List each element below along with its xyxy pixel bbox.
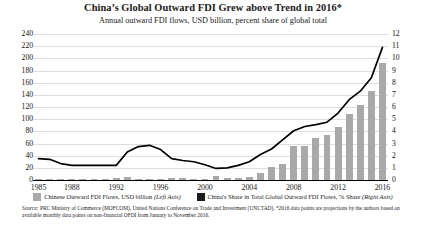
- x-axis-tick-label: 2012: [318, 183, 358, 192]
- right-axis-tick-label: 1: [392, 164, 420, 172]
- right-axis-tick-label: 12: [392, 30, 420, 38]
- left-axis-tick-label: 220: [3, 42, 33, 50]
- left-axis-tick-label: 240: [3, 30, 33, 38]
- source-text: PRC Ministry of Commerce (MOFCOM), Unite…: [22, 205, 400, 218]
- fdi-chart-card: China’s Global Outward FDI Grew above Tr…: [0, 0, 426, 233]
- legend-swatch-bars: [33, 193, 41, 201]
- right-axis-tick-label: 7: [392, 91, 420, 99]
- right-axis-tick-label: 6: [392, 103, 420, 111]
- right-axis-tick-label: 10: [392, 54, 420, 62]
- x-axis-tick-label: 2000: [185, 183, 225, 192]
- right-axis-tick-label: 11: [392, 42, 420, 50]
- right-axis-tick-label: 9: [392, 67, 420, 75]
- left-axis-tick-label: 140: [3, 91, 33, 99]
- legend-item-bars[interactable]: Chinese Outward FDI Flows, USD billion (…: [33, 193, 180, 201]
- x-axis-tick-label: 2008: [274, 183, 314, 192]
- chart-legend: Chinese Outward FDI Flows, USD billion (…: [0, 193, 426, 201]
- x-axis-tick-label: 2016: [362, 183, 402, 192]
- left-axis-tick-label: 60: [3, 140, 33, 148]
- right-axis-tick-label: 8: [392, 79, 420, 87]
- left-axis-tick-label: 180: [3, 67, 33, 75]
- left-axis-tick-label: 120: [3, 103, 33, 111]
- right-axis-tick-label: 2: [392, 152, 420, 160]
- legend-item-line[interactable]: China's Share in Total Global Outward FD…: [197, 193, 393, 201]
- right-axis-tick-label: 5: [392, 115, 420, 123]
- left-axis-tick-label: 20: [3, 164, 33, 172]
- x-axis-baseline: [33, 180, 388, 181]
- x-axis-tick-label: 1988: [52, 183, 92, 192]
- left-axis-tick-label: 80: [3, 127, 33, 135]
- left-axis-tick-label: 160: [3, 79, 33, 87]
- legend-label-bars: Chinese Outward FDI Flows, USD billion (…: [44, 193, 180, 201]
- legend-swatch-line: [197, 193, 205, 201]
- left-axis-tick-label: 200: [3, 54, 33, 62]
- plot-area: [33, 34, 388, 180]
- x-axis-tick-label: 2004: [229, 183, 269, 192]
- share-line-path: [39, 47, 383, 168]
- source-note: Source: PRC Ministry of Commerce (MOFCOM…: [22, 205, 414, 219]
- x-axis-tick-label: 1992: [96, 183, 136, 192]
- source-label: Source:: [22, 205, 39, 211]
- left-axis-tick-label: 40: [3, 152, 33, 160]
- x-axis-tick-label: 1996: [141, 183, 181, 192]
- line-series: [33, 34, 388, 180]
- right-axis-tick-label: 3: [392, 140, 420, 148]
- left-axis-tick-label: 100: [3, 115, 33, 123]
- legend-label-line: China's Share in Total Global Outward FD…: [208, 193, 393, 201]
- right-axis-tick-label: 4: [392, 127, 420, 135]
